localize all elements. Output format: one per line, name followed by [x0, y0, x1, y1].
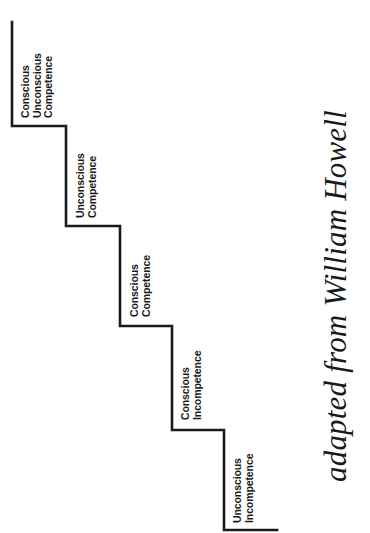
step-label-line: Competence — [43, 53, 55, 118]
step-label-unconscious-competence: Unconscious Competence — [75, 153, 98, 218]
step-label-line: Incompetence — [192, 351, 204, 420]
step-label-line: Conscious — [129, 255, 141, 317]
step-label-conscious-incompetence: Conscious Incompetence — [180, 351, 203, 420]
step-label-line: Unconscious — [232, 454, 244, 523]
attribution-credit: adapted from William Howell — [318, 110, 354, 482]
step-label-line: Conscious — [180, 351, 192, 420]
step-label-unconscious-incompetence: Unconscious Incompetence — [232, 454, 255, 523]
step-label-conscious-competence: Conscious Competence — [129, 255, 152, 317]
step-label-line: Competence — [141, 255, 153, 317]
step-label-line: Incompetence — [244, 454, 256, 523]
step-label-line: Conscious — [20, 53, 32, 118]
step-label-line: Competence — [87, 153, 99, 218]
step-label-conscious-unconscious-competence: Conscious Unconscious Competence — [20, 53, 55, 118]
step-label-line: Unconscious — [75, 153, 87, 218]
staircase-diagram — [0, 0, 370, 533]
